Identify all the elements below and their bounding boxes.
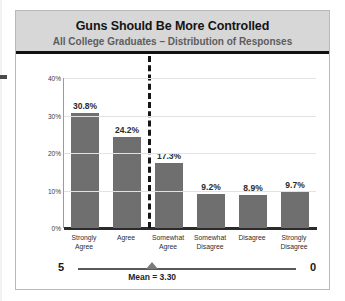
x-axis-label-somewhat-agree: SomewhatAgree [147,234,189,251]
x-axis-label-line: Disagree [273,243,315,252]
scan-edge-artifact [0,0,2,301]
x-axis-label-agree: Agree [105,234,147,243]
x-axis-label-line: Agree [147,243,189,252]
gridline [64,78,316,79]
scan-speck-artifact [0,75,7,79]
mean-scale-line [78,268,296,270]
bar-strongly-agree[interactable] [71,113,99,229]
plot-wrapper: 0%10%20%30%40% 30.8%24.2%17.3%9.2%8.9%9.… [16,54,329,290]
chart-subtitle: All College Graduates – Distribution of … [16,33,329,48]
gridline [64,116,316,117]
x-axis-label-line: Agree [63,243,105,252]
bar-value-label: 30.8% [73,101,97,111]
bar-agree[interactable] [113,137,141,228]
y-axis-tick-20%: 20% [48,150,61,157]
chart-title: Guns Should Be More Controlled [16,11,329,33]
x-axis-label-strongly-disagree: StronglyDisagree [273,234,315,251]
scale-max-label: 5 [58,261,64,273]
bar-somewhat-agree[interactable] [155,163,183,228]
bar-strongly-disagree[interactable] [281,192,309,228]
scale-min-label: 0 [310,261,316,273]
x-axis-label-line: Somewhat [189,234,231,243]
chart-frame: Guns Should Be More Controlled All Colle… [15,10,330,290]
x-axis-category-labels: StronglyAgreeAgreeSomewhatAgreeSomewhatD… [63,234,315,258]
y-axis-tick-30%: 30% [48,112,61,119]
chart-header-band: Guns Should Be More Controlled All Colle… [16,11,329,52]
gridline [64,153,316,154]
mean-marker-triangle-icon [146,262,158,269]
bar-somewhat-disagree[interactable] [197,194,225,229]
agree-disagree-divider-line [148,56,151,228]
x-axis-label-disagree: Disagree [231,234,273,243]
y-axis-tick-0%: 0% [52,225,61,232]
bar-disagree[interactable] [239,195,267,228]
x-axis-label-somewhat-disagree: SomewhatDisagree [189,234,231,251]
x-axis-label-line: Agree [105,234,147,243]
x-axis-label-strongly-agree: StronglyAgree [63,234,105,251]
y-axis-tick-10%: 10% [48,187,61,194]
plot-area: 30.8%24.2%17.3%9.2%8.9%9.7% [63,78,315,228]
y-axis-tick-40%: 40% [48,75,61,82]
x-axis-label-line: Strongly [273,234,315,243]
bar-value-label: 9.7% [285,180,304,190]
x-axis-label-line: Strongly [63,234,105,243]
mean-scale-row: 5 0 Mean = 3.30 [56,260,318,290]
x-axis-label-line: Somewhat [147,234,189,243]
bar-value-label: 24.2% [115,125,139,135]
x-axis-label-line: Disagree [189,243,231,252]
x-axis-label-line: Disagree [231,234,273,243]
mean-value-label: Mean = 3.30 [128,272,176,282]
gridline [64,191,316,192]
y-axis-tick-labels: 0%10%20%30%40% [40,78,61,228]
